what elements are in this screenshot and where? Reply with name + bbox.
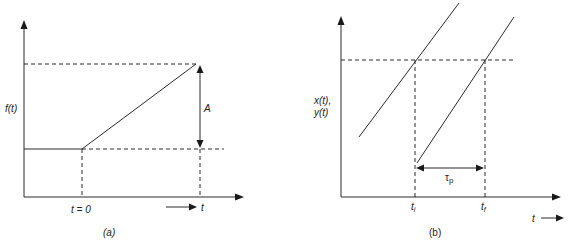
a-y-label: f(t)	[5, 103, 17, 114]
b-tau-arrow-left-icon	[416, 165, 424, 172]
b-ti-label: ti	[411, 201, 416, 213]
panel-b: τp x(t), y(t) ti tf t (b)	[313, 3, 564, 238]
a-t-label: t	[201, 202, 205, 213]
panel-a: f(t) A t = 0 t (a)	[5, 20, 244, 238]
diagram-canvas: f(t) A t = 0 t (a) τp x(t), y(t)	[0, 0, 570, 249]
a-amplitude-arrow-up-icon	[197, 65, 204, 73]
a-x-axis-arrow-icon	[235, 194, 244, 201]
b-y-ramp-line	[417, 17, 514, 163]
b-x-axis-arrow-icon	[552, 194, 561, 201]
a-ramp-line	[82, 64, 196, 149]
b-x-ramp-line	[359, 3, 459, 137]
b-tf-label: tf	[481, 201, 487, 213]
b-y-axis-arrow-icon	[338, 16, 345, 25]
a-t-direction-arrow-icon	[189, 204, 197, 211]
b-tau-arrow-right-icon	[476, 165, 484, 172]
a-y-axis-arrow-icon	[21, 20, 28, 29]
a-t0-label: t = 0	[71, 204, 91, 215]
b-y-label-line2: y(t)	[313, 107, 328, 118]
a-amplitude-arrow-down-icon	[197, 140, 204, 148]
b-t-direction-arrow-icon	[556, 215, 564, 222]
a-amplitude-label: A	[203, 103, 211, 114]
b-caption: (b)	[429, 227, 441, 238]
b-tau-label: τp	[445, 172, 454, 185]
b-y-label-line1: x(t),	[313, 95, 331, 106]
b-t-label: t	[532, 213, 536, 224]
a-caption: (a)	[103, 227, 115, 238]
